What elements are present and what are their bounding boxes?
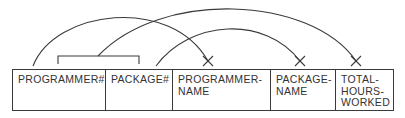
x-marker-icon — [351, 56, 361, 66]
attribute-programmer-no: PROGRAMMER# — [12, 69, 106, 111]
arc-programmer-to-programmer-name — [33, 17, 208, 66]
arc-package-to-package-name — [156, 29, 300, 66]
arc-composite-to-total-hours — [98, 9, 356, 61]
attribute-total-hours-worked: TOTAL- HOURS- WORKED — [336, 69, 394, 111]
x-marker-icon — [295, 56, 305, 66]
composite-key-bracket — [58, 56, 139, 64]
attribute-programmer-name: PROGRAMMER- NAME — [173, 69, 271, 111]
x-marker-icon — [203, 56, 213, 66]
attribute-package-no: PACKAGE# — [106, 69, 173, 111]
attribute-package-name: PACKAGE- NAME — [271, 69, 336, 111]
